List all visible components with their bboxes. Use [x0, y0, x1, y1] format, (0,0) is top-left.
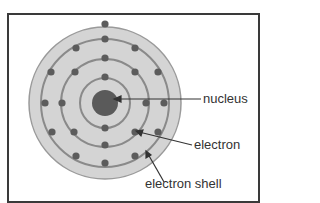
- nucleus-label: nucleus: [203, 92, 248, 105]
- electron-shell-label: electron shell: [145, 177, 222, 190]
- nucleus: [92, 90, 118, 116]
- electron-label: electron: [194, 138, 240, 151]
